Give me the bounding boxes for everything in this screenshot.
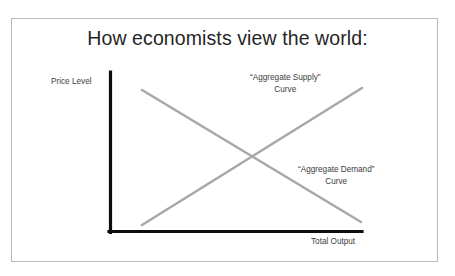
x-axis-label: Total Output [311,236,355,247]
aggregate-supply-demand-chart: Price Level Total Output “Aggregate Supp… [0,0,455,276]
aggregate-demand-label-line1: “Aggregate Demand” [298,164,374,176]
chart-plot-svg [0,0,455,276]
y-axis-label: Price Level [51,76,92,87]
aggregate-supply-label-line1: “Aggregate Supply” [250,72,321,84]
slide-canvas: How economists view the world: Price Lev… [0,0,455,276]
aggregate-supply-label-line2: Curve [250,84,321,96]
aggregate-supply-curve-label: “Aggregate Supply” Curve [250,72,321,95]
aggregate-demand-curve-label: “Aggregate Demand” Curve [298,164,374,187]
aggregate-demand-label-line2: Curve [298,176,374,188]
